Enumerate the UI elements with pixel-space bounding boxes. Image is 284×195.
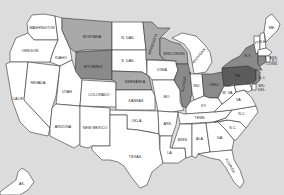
svg-text:IND.: IND.	[193, 84, 201, 88]
svg-text:ARIZONA: ARIZONA	[55, 125, 72, 129]
state-pa[interactable]: PA.	[222, 66, 256, 86]
svg-text:MISS.: MISS.	[178, 138, 188, 142]
svg-text:MO.: MO.	[163, 95, 170, 99]
state-ks[interactable]: KANSAS	[116, 90, 155, 110]
svg-text:IOWA: IOWA	[157, 68, 167, 72]
svg-text:R.I.: R.I.	[272, 59, 278, 63]
svg-text:COLORADO: COLORADO	[88, 93, 109, 97]
us-map-svg: WASHINGTON OREGON CALIF. IDAHO NEVADA MO…	[0, 0, 284, 195]
svg-text:S.C.: S.C.	[229, 126, 236, 130]
svg-text:AK.: AK.	[19, 182, 25, 186]
svg-text:DEL.: DEL.	[258, 88, 266, 92]
svg-text:MONTANA: MONTANA	[83, 35, 102, 39]
svg-text:N.C.: N.C.	[238, 112, 246, 116]
svg-text:NEW MEXICO: NEW MEXICO	[83, 126, 108, 130]
state-wy[interactable]: WYOMING	[75, 50, 112, 80]
svg-text:CALIF.: CALIF.	[12, 97, 23, 101]
svg-text:KANSAS: KANSAS	[128, 99, 144, 103]
svg-text:IDAHO: IDAHO	[55, 56, 67, 60]
svg-text:OHIO: OHIO	[209, 83, 219, 87]
svg-text:UTAH: UTAH	[62, 90, 72, 94]
svg-text:PA.: PA.	[235, 74, 241, 78]
svg-text:NEVADA: NEVADA	[30, 81, 46, 85]
svg-text:TEXAS: TEXAS	[129, 155, 142, 159]
svg-text:N. DAK.: N. DAK.	[121, 36, 135, 40]
state-ia[interactable]: IOWA	[147, 60, 178, 80]
svg-text:W. VA.: W. VA.	[222, 91, 233, 95]
svg-text:KY.: KY.	[201, 104, 207, 108]
svg-text:WYOMING: WYOMING	[84, 65, 103, 69]
us-map: WASHINGTON OREGON CALIF. IDAHO NEVADA MO…	[0, 0, 284, 195]
svg-text:WISCONSIN: WISCONSIN	[163, 52, 185, 56]
svg-text:LA.: LA.	[167, 151, 173, 155]
state-wa[interactable]: WASHINGTON	[27, 14, 58, 40]
svg-text:ARK.: ARK.	[164, 122, 173, 126]
state-nd[interactable]: N. DAK.	[112, 22, 146, 50]
state-mt[interactable]: MONTANA	[62, 18, 112, 52]
svg-text:NEBRASKA: NEBRASKA	[125, 80, 146, 84]
svg-text:ME.: ME.	[269, 26, 276, 30]
svg-text:WASHINGTON: WASHINGTON	[29, 26, 55, 30]
svg-text:VA.: VA.	[236, 98, 242, 102]
svg-text:N.J.: N.J.	[259, 76, 266, 80]
svg-text:OKLA.: OKLA.	[131, 119, 142, 123]
svg-text:ALA.: ALA.	[196, 137, 204, 141]
state-co[interactable]: COLORADO	[80, 80, 116, 107]
svg-text:OREGON: OREGON	[22, 49, 39, 53]
svg-text:TENN.: TENN.	[194, 116, 205, 120]
svg-text:S. DAK.: S. DAK.	[121, 59, 134, 63]
svg-text:N.Y.: N.Y.	[245, 54, 252, 58]
svg-text:GA.: GA.	[217, 136, 224, 140]
state-nm[interactable]: NEW MEXICO	[80, 106, 110, 148]
